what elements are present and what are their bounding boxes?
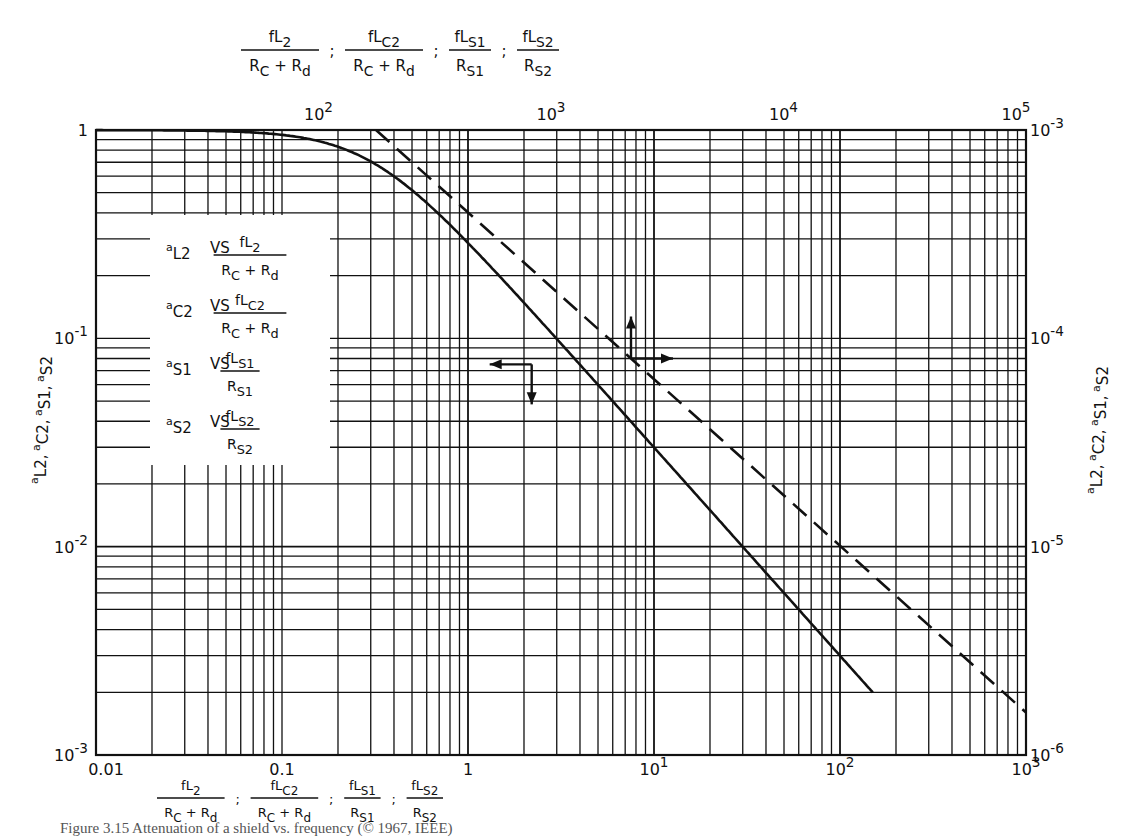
legend-entry: aC2VSfLC2RC + Rd <box>166 292 286 341</box>
fraction-numerator: fL2 <box>240 234 261 255</box>
fraction-numerator: fLS2 <box>522 28 553 50</box>
y-tick-left: 10-2 <box>54 532 88 557</box>
x-tick-bottom: 0.1 <box>269 760 294 779</box>
legend-entry: aS1VSfLS1RS1 <box>166 350 260 399</box>
axis-title-term: fLC2RC + Rd <box>345 28 423 79</box>
fraction-denominator: RC + Rd <box>221 262 278 283</box>
fraction-denominator: RS1 <box>456 57 484 79</box>
axis-title-text: aL2, aC2, aS1, aS2 <box>1084 366 1112 494</box>
fraction-denominator: RS2 <box>227 436 253 457</box>
bottom-axis-title: fL2RC + Rd;fLC2RC + Rd;fLS1RS1;fLS2RS2 <box>157 778 443 825</box>
y-tick-left: 10-3 <box>54 740 88 765</box>
x-tick-top: 103 <box>536 99 565 124</box>
tick-labels: 0.010.11101102103102103104105110-110-210… <box>54 99 1064 779</box>
log-log-chart: aL2VSfL2RC + RdaC2VSfLC2RC + RdaS1VSfLS1… <box>0 0 1141 838</box>
legend-entry: aS2VSfLS2RS2 <box>166 408 260 457</box>
fraction-numerator: fLC2 <box>235 292 265 313</box>
x-tick-top: 102 <box>304 99 333 124</box>
left-axis-title: aL2, aC2, aS1, aS2 <box>28 356 56 484</box>
axis-title-term: fLS2RS2 <box>517 28 559 79</box>
fraction-denominator: RC + Rd <box>249 57 310 79</box>
axis-title-term: fLS1RS1 <box>344 778 380 825</box>
y-tick-right: 10-6 <box>1030 740 1064 765</box>
legend-entry: aL2VSfL2RC + Rd <box>166 234 286 283</box>
x-tick-bottom: 101 <box>639 754 668 779</box>
x-tick-bottom: 102 <box>825 754 854 779</box>
term-separator: ; <box>329 42 334 60</box>
fraction-numerator: fLS2 <box>225 408 254 429</box>
arrowhead-up-icon <box>626 317 636 329</box>
x-tick-top: 105 <box>1001 99 1030 124</box>
fraction-numerator: fLS1 <box>349 778 376 798</box>
fraction-numerator: fL2 <box>269 28 291 50</box>
arrowhead-left-icon <box>490 359 502 369</box>
y-tick-right: 10-3 <box>1030 115 1064 140</box>
y-tick-right: 10-5 <box>1030 532 1064 557</box>
axis-title-text: aL2, aC2, aS1, aS2 <box>28 356 56 484</box>
legend-alpha: aS2 <box>166 415 192 437</box>
axis-title-term: fLS2RS2 <box>407 778 443 825</box>
fraction-numerator: fLS1 <box>225 350 254 371</box>
x-tick-bottom: 1 <box>463 760 473 779</box>
x-tick-top: 104 <box>769 99 798 124</box>
legend: aL2VSfL2RC + RdaC2VSfLC2RC + RdaS1VSfLS1… <box>166 234 286 457</box>
x-tick-bottom: 0.01 <box>88 760 124 779</box>
axis-title-term: fL2RC + Rd <box>241 28 319 79</box>
axis-title-term: fLC2RC + Rd <box>251 778 319 825</box>
fraction-denominator: RS1 <box>227 378 253 399</box>
chart-figure: aL2VSfL2RC + RdaC2VSfLC2RC + RdaS1VSfLS1… <box>0 0 1141 838</box>
term-separator: ; <box>391 792 395 807</box>
y-tick-left: 1 <box>78 121 88 140</box>
term-separator: ; <box>235 792 239 807</box>
top-axis-title: fL2RC + Rd;fLC2RC + Rd;fLS1RS1;fLS2RS2 <box>241 28 559 79</box>
fraction-denominator: RC + Rd <box>353 57 414 79</box>
arrowhead-right-icon <box>661 354 673 364</box>
axis-title-term: fLS1RS1 <box>449 28 491 79</box>
legend-fraction: fLS1RS1 <box>220 350 259 399</box>
legend-alpha: aL2 <box>166 241 191 263</box>
term-separator: ; <box>329 792 333 807</box>
fraction-denominator: RC + Rd <box>221 320 278 341</box>
right-axis-title: aL2, aC2, aS1, aS2 <box>1084 366 1112 494</box>
fraction-numerator: fLC2 <box>271 778 299 798</box>
solid-curve <box>96 130 873 692</box>
term-separator: ; <box>501 42 506 60</box>
legend-alpha: aS1 <box>166 357 192 379</box>
legend-fraction: fLS2RS2 <box>220 408 259 457</box>
fraction-denominator: RS2 <box>524 57 552 79</box>
legend-alpha: aC2 <box>166 299 193 321</box>
y-tick-right: 10-4 <box>1030 323 1064 348</box>
arrowhead-down-icon <box>527 392 537 404</box>
y-tick-left: 10-1 <box>54 323 88 348</box>
term-separator: ; <box>433 42 438 60</box>
fraction-numerator: fLC2 <box>368 28 400 50</box>
fraction-numerator: fL2 <box>181 778 200 798</box>
figure-caption: Figure 3.15 Attenuation of a shield vs. … <box>60 820 453 837</box>
axis-title-term: fL2RC + Rd <box>157 778 225 825</box>
fraction-numerator: fLS1 <box>454 28 485 50</box>
fraction-numerator: fLS2 <box>411 778 438 798</box>
